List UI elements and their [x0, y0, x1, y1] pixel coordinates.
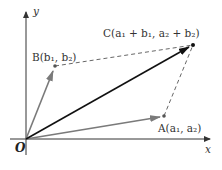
- point-a: [162, 114, 166, 118]
- point-c: [191, 43, 195, 47]
- point-b: [53, 64, 57, 68]
- x-axis-label: x: [205, 144, 211, 155]
- vector-diagram: y x O B(b₁, b₂) C(a₁ + b₁, a₂ + b₂) A(a₁…: [0, 0, 222, 170]
- origin-label: O: [15, 142, 25, 154]
- diagram-canvas: [0, 0, 222, 170]
- point-a-label: A(a₁, a₂): [158, 123, 201, 134]
- y-axis-label: y: [33, 6, 39, 17]
- point-c-label: C(a₁ + b₁, a₂ + b₂): [103, 28, 200, 39]
- dashed-a-to-c: [164, 45, 193, 116]
- point-b-label: B(b₁, b₂): [32, 52, 76, 63]
- vector-ob: [26, 71, 53, 139]
